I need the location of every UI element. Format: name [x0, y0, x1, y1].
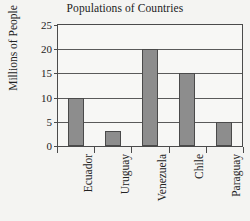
x-axis-label-chile: Chile — [193, 154, 205, 179]
bar-slot — [58, 25, 95, 146]
bar-slot — [168, 25, 205, 146]
x-axis-labels: EcuadorUruguayVenezuelaChileParaguay — [57, 152, 243, 221]
x-tick-mark — [243, 147, 244, 153]
plot-area: 0510152025 — [57, 24, 243, 147]
bar-slot — [205, 25, 242, 146]
y-tick-label: 5 — [47, 116, 53, 128]
bars-group — [58, 25, 242, 146]
y-tick-label: 0 — [47, 140, 53, 152]
x-label-slot: Ecuador — [57, 152, 94, 221]
bar-slot — [132, 25, 169, 146]
x-axis-label-uruguay: Uruguay — [119, 154, 131, 194]
bar-uruguay[interactable] — [105, 131, 121, 146]
bar-chile[interactable] — [179, 73, 195, 146]
x-label-slot: Chile — [169, 152, 206, 221]
bar-venezuela[interactable] — [142, 49, 158, 146]
y-tick-label: 25 — [41, 19, 52, 31]
y-tick-label: 20 — [41, 43, 52, 55]
x-label-slot: Uruguay — [94, 152, 131, 221]
x-axis-label-paraguay: Paraguay — [230, 154, 242, 197]
x-label-slot: Venezuela — [131, 152, 168, 221]
y-axis-title: Millions of People — [7, 0, 19, 108]
y-tick-label: 15 — [41, 67, 52, 79]
y-tick-label: 10 — [41, 92, 52, 104]
chart-title: Populations of Countries — [0, 2, 250, 14]
bar-slot — [95, 25, 132, 146]
x-label-slot: Paraguay — [206, 152, 243, 221]
bar-ecuador[interactable] — [68, 98, 84, 146]
bar-chart-figure: Populations of Countries Millions of Peo… — [0, 0, 250, 221]
x-axis-label-ecuador: Ecuador — [82, 154, 94, 192]
x-axis-label-venezuela: Venezuela — [156, 154, 168, 201]
bar-paraguay[interactable] — [216, 122, 232, 146]
